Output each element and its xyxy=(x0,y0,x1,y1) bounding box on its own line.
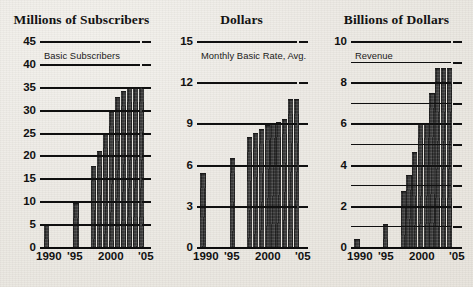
panel-title: Billions of Dollars xyxy=(320,12,473,28)
y-axis-label: 25 xyxy=(10,128,36,140)
panel-title: Millions of Subscribers xyxy=(0,12,163,28)
bar xyxy=(270,123,275,248)
x-axis-labels: 1990'952000'05 xyxy=(347,250,463,266)
axis-tick-minor xyxy=(453,62,462,64)
gridline xyxy=(351,41,451,43)
gridline xyxy=(197,123,297,125)
plot-area: 0246810 xyxy=(351,42,456,248)
plot-area: 051015202530354045 xyxy=(40,42,148,248)
gridline xyxy=(40,41,140,43)
bar xyxy=(447,68,452,248)
bar xyxy=(265,125,270,248)
bar xyxy=(200,173,205,248)
bar xyxy=(383,224,388,248)
bar xyxy=(44,224,49,248)
gridline xyxy=(351,206,451,208)
x-axis-labels: 1990'952000'05 xyxy=(36,250,152,266)
axis-tick xyxy=(142,178,151,180)
axis-tick-minor xyxy=(453,226,462,228)
axis-tick xyxy=(453,123,462,125)
bar xyxy=(259,129,264,248)
gridline xyxy=(351,82,451,84)
y-axis-label: 2 xyxy=(321,201,347,213)
gridline xyxy=(40,64,140,66)
gridline-minor xyxy=(351,62,451,63)
x-tick-label: '95 xyxy=(67,250,83,262)
bar xyxy=(253,133,258,248)
chart-panel-group: Millions of Subscribers Basic Subscriber… xyxy=(0,0,473,287)
bar-group xyxy=(40,42,148,248)
bar-group xyxy=(351,42,456,248)
y-axis-label: 40 xyxy=(10,59,36,71)
x-tick-label: 2000 xyxy=(409,250,435,262)
gridline-minor xyxy=(351,226,451,227)
axis-tick xyxy=(142,87,151,89)
y-axis-label: 8 xyxy=(321,77,347,89)
x-tick-label: '95 xyxy=(224,250,240,262)
gridline xyxy=(40,201,140,203)
axis-tick-minor xyxy=(453,185,462,187)
bar-group xyxy=(197,42,303,248)
bar xyxy=(429,93,434,249)
y-axis-label: 12 xyxy=(167,77,193,89)
x-tick-label: 2000 xyxy=(98,250,124,262)
gridline xyxy=(40,178,140,180)
axis-tick xyxy=(142,224,151,226)
x-tick-label: 1990 xyxy=(347,250,373,262)
axis-tick-minor xyxy=(453,144,462,146)
x-tick-label: '05 xyxy=(138,250,154,262)
axis-tick xyxy=(453,41,462,43)
y-axis-label: 10 xyxy=(321,36,347,48)
axis-tick xyxy=(142,110,151,112)
y-axis-label: 10 xyxy=(10,196,36,208)
bar xyxy=(282,119,287,248)
bar xyxy=(294,99,299,248)
y-axis-label: 0 xyxy=(167,242,193,254)
gridline xyxy=(197,206,297,208)
x-axis-line xyxy=(40,247,151,249)
y-axis-label: 6 xyxy=(321,118,347,130)
gridline xyxy=(40,87,140,89)
y-axis-label: 0 xyxy=(10,242,36,254)
gridline xyxy=(197,165,297,167)
gridline xyxy=(40,133,140,135)
axis-tick xyxy=(453,206,462,208)
y-axis-label: 15 xyxy=(10,173,36,185)
y-axis-label: 9 xyxy=(167,118,193,130)
y-axis-label: 6 xyxy=(167,160,193,172)
gridline xyxy=(351,165,451,167)
y-axis-label: 30 xyxy=(10,105,36,117)
bar xyxy=(230,158,235,248)
y-axis-label: 0 xyxy=(321,242,347,254)
bar xyxy=(97,151,102,248)
chart-panel-subscribers: Millions of Subscribers Basic Subscriber… xyxy=(0,0,163,287)
gridline xyxy=(197,41,297,43)
x-axis-line xyxy=(351,247,462,249)
plot-area: 03691215 xyxy=(197,42,303,248)
bar xyxy=(247,137,252,248)
bar xyxy=(441,68,446,248)
bar xyxy=(103,133,108,248)
axis-tick xyxy=(299,41,308,43)
axis-tick xyxy=(142,155,151,157)
y-axis-label: 20 xyxy=(10,150,36,162)
bar xyxy=(288,99,293,248)
y-axis-label: 45 xyxy=(10,36,36,48)
x-axis-labels: 1990'952000'05 xyxy=(193,250,309,266)
gridline xyxy=(40,224,140,226)
x-tick-label: '05 xyxy=(449,250,465,262)
panel-title: Dollars xyxy=(163,12,320,28)
y-axis-label: 4 xyxy=(321,160,347,172)
gridline-minor xyxy=(351,185,451,186)
axis-tick xyxy=(299,165,308,167)
axis-tick xyxy=(299,123,308,125)
x-tick-label: '05 xyxy=(295,250,311,262)
axis-tick xyxy=(299,82,308,84)
axis-tick-minor xyxy=(453,103,462,105)
gridline xyxy=(40,155,140,157)
axis-tick xyxy=(142,41,151,43)
axis-tick xyxy=(142,64,151,66)
axis-tick xyxy=(299,206,308,208)
gridline-minor xyxy=(351,103,451,104)
gridline-minor xyxy=(351,144,451,145)
